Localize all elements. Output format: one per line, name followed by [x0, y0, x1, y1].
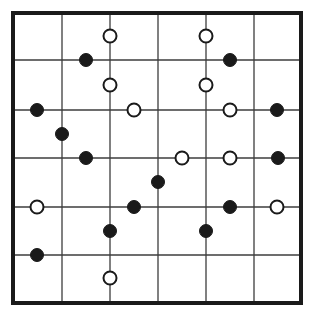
white-stone-24[interactable]	[104, 272, 117, 285]
black-stone-3[interactable]	[31, 104, 44, 117]
black-stone-7[interactable]	[272, 152, 285, 165]
black-stone-13[interactable]	[31, 249, 44, 262]
white-stone-15[interactable]	[200, 30, 213, 43]
black-stone-1[interactable]	[80, 54, 93, 67]
white-stone-16[interactable]	[104, 79, 117, 92]
board-canvas[interactable]	[0, 0, 318, 317]
black-stone-6[interactable]	[80, 152, 93, 165]
black-stone-11[interactable]	[104, 225, 117, 238]
grid-lines	[13, 13, 301, 303]
black-stone-5[interactable]	[56, 128, 69, 141]
black-stone-9[interactable]	[128, 201, 141, 214]
white-stone-23[interactable]	[271, 201, 284, 214]
diagram-page	[0, 0, 318, 317]
white-stone-21[interactable]	[224, 152, 237, 165]
white-stone-17[interactable]	[200, 79, 213, 92]
black-stone-4[interactable]	[271, 104, 284, 117]
black-stone-2[interactable]	[224, 54, 237, 67]
black-stone-10[interactable]	[224, 201, 237, 214]
white-stone-19[interactable]	[224, 104, 237, 117]
white-stone-18[interactable]	[128, 104, 141, 117]
white-stone-14[interactable]	[104, 30, 117, 43]
puzzle-board[interactable]	[0, 0, 318, 317]
white-stone-22[interactable]	[31, 201, 44, 214]
black-stone-8[interactable]	[152, 176, 165, 189]
black-stone-12[interactable]	[200, 225, 213, 238]
white-stone-20[interactable]	[176, 152, 189, 165]
